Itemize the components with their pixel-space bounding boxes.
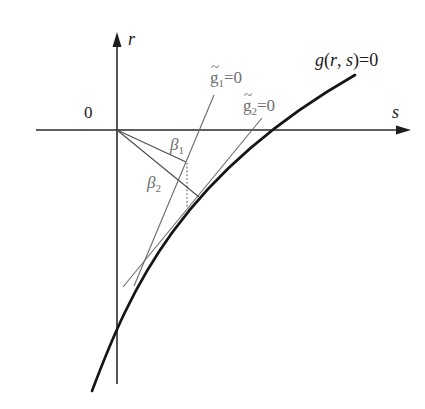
curve-label: g(r, s)=0 [315, 50, 378, 71]
g1-label-eq: =0 [224, 68, 242, 87]
r-axis-label: r [128, 29, 136, 49]
g2-label-eq: =0 [257, 96, 275, 115]
origin-label: 0 [84, 103, 93, 122]
g2-label: g2=0 [243, 96, 275, 117]
s-axis-label: s [392, 102, 399, 122]
beta2-label-sub: 2 [155, 182, 161, 194]
g1-label: g1=0 [210, 68, 242, 89]
curve-label-s: s [346, 50, 353, 70]
beta1-label-sub: 1 [178, 144, 184, 156]
curve-label-eq: =0 [359, 50, 378, 70]
curve-label-comma: , [337, 50, 346, 70]
diagram-canvas: 0 r s g(r, s)=0 ~ g1=0 ~ g2=0 β1 β2 [0, 0, 425, 409]
curve-label-func: g [315, 50, 324, 70]
